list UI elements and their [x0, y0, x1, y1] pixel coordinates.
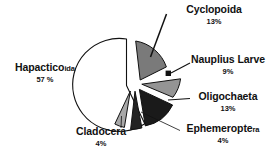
pie-label-cyclopoida-value: 13%: [160, 18, 268, 26]
pie-slice-cyclopoida: [136, 41, 167, 80]
pie-label-oligochaeta-name: Oligochaeta: [186, 91, 270, 102]
pie-label-cyclopoida: Cyclopoida 13%: [160, 4, 268, 25]
pie-label-ephemeroptera-name: Ephemeroptera: [176, 123, 270, 134]
pie-label-cladocera-value: 4%: [56, 140, 146, 148]
pie-label-nauplius-larve-name: Nauplius Larve: [186, 54, 270, 65]
pie-label-ephemeroptera: Ephemeroptera 4%: [176, 123, 270, 144]
pie-chart: Cyclopoida 13% Nauplius Larve 9% Oligoch…: [0, 0, 270, 155]
nauplius-marker-icon: [166, 71, 171, 76]
pie-label-cladocera-name: Cladocera: [56, 126, 146, 137]
pie-label-hapacticoida: Hapacticoida 57 %: [2, 62, 88, 83]
pie-label-oligochaeta-value: 13%: [186, 105, 270, 113]
pie-label-oligochaeta: Oligochaeta 13%: [186, 91, 270, 112]
pie-label-nauplius-larve: Nauplius Larve 9%: [186, 54, 270, 75]
pie-label-cladocera: Cladocera 4%: [56, 126, 146, 147]
pie-label-ephemeroptera-value: 4%: [176, 137, 270, 145]
pie-label-hapacticoida-value: 57 %: [2, 76, 88, 84]
pie-label-cyclopoida-name: Cyclopoida: [160, 4, 268, 15]
pie-label-nauplius-larve-value: 9%: [186, 68, 270, 76]
pie-label-hapacticoida-name: Hapacticoida: [2, 62, 88, 73]
